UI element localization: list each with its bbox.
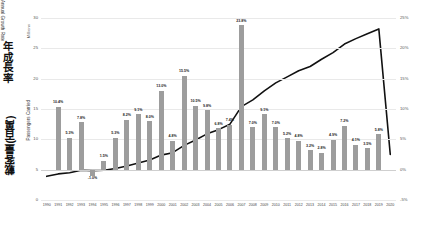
- x-axis-tick: 2006: [226, 204, 234, 208]
- growth-rate-bar: [353, 145, 358, 170]
- x-axis-tick: 2003: [192, 204, 200, 208]
- x-axis-tick: 2011: [283, 204, 291, 208]
- x-axis-tick: 1999: [146, 204, 154, 208]
- bar-value-label: 7.8%: [77, 117, 85, 121]
- bar-value-label: 5.3%: [111, 132, 119, 136]
- growth-rate-bar: [113, 138, 118, 170]
- right-axis-title-zh: 年成長率: [0, 41, 15, 83]
- bar-value-label: 4.8%: [169, 135, 177, 139]
- x-axis-tick: 1997: [123, 204, 131, 208]
- bar-value-label: 9.1%: [134, 109, 142, 113]
- bar-value-label: 10.5%: [190, 100, 200, 104]
- bar-value-label: 9.1%: [260, 109, 268, 113]
- growth-rate-bar: [170, 141, 175, 170]
- growth-rate-bar: [239, 25, 244, 169]
- x-axis-tick: 1996: [111, 204, 119, 208]
- bar-value-label: 4.1%: [352, 139, 360, 143]
- gridline: [41, 18, 396, 19]
- growth-rate-bar: [67, 138, 72, 170]
- bar-value-label: 4.8%: [295, 135, 303, 139]
- bar-value-label: 3.2%: [306, 145, 314, 149]
- growth-rate-bar: [262, 114, 267, 169]
- growth-rate-bar: [90, 170, 95, 176]
- gridline: [41, 79, 396, 80]
- growth-rate-bar: [56, 107, 61, 170]
- x-axis-tick: 1995: [100, 204, 108, 208]
- right-axis-tick: 25%: [400, 16, 408, 20]
- bar-value-label: 8.2%: [123, 114, 131, 118]
- right-axis-tick: 5%: [400, 137, 406, 141]
- x-axis-tick: 2016: [340, 204, 348, 208]
- bar-value-label: 7.0%: [272, 122, 280, 126]
- growth-rate-bar: [342, 126, 347, 170]
- bar-value-label: 9.8%: [203, 105, 211, 109]
- bar-value-label: 15.5%: [179, 70, 189, 74]
- bar-value-label: 7.0%: [249, 122, 257, 126]
- gridline: [41, 48, 396, 49]
- right-axis-tick: 0%: [400, 168, 406, 172]
- bar-value-label: 5.2%: [283, 133, 291, 137]
- bar-value-label: 7.4%: [226, 119, 234, 123]
- growth-rate-bar: [319, 153, 324, 170]
- bar-value-label: 1.5%: [100, 155, 108, 159]
- x-axis-tick: 2004: [203, 204, 211, 208]
- right-axis-tick: 20%: [400, 46, 408, 50]
- bar-value-label: -1.0%: [88, 177, 97, 181]
- left-axis-tick: 20: [33, 77, 38, 81]
- right-axis-tick: -5%: [400, 198, 407, 202]
- x-axis-tick: 2009: [260, 204, 268, 208]
- gridline: [41, 200, 396, 201]
- x-axis-tick: 2005: [215, 204, 223, 208]
- x-axis-tick: 2002: [180, 204, 188, 208]
- chart-container: Millions Passengers Carried 載客量(百萬) Annu…: [0, 0, 439, 229]
- x-axis-tick: 2013: [306, 204, 314, 208]
- bar-value-label: 2.8%: [317, 147, 325, 151]
- left-axis-tick: 30: [33, 16, 38, 20]
- x-axis-tick: 1993: [77, 204, 85, 208]
- growth-rate-bar: [216, 128, 221, 169]
- right-axis-tick: 15%: [400, 77, 408, 81]
- growth-rate-bar: [376, 134, 381, 169]
- x-axis-tick: 2008: [249, 204, 257, 208]
- x-axis-tick: 1998: [134, 204, 142, 208]
- left-axis-tick: 10: [33, 137, 38, 141]
- x-axis-tick: 2019: [375, 204, 383, 208]
- bar-value-label: 4.9%: [329, 134, 337, 138]
- growth-rate-bar: [182, 76, 187, 170]
- growth-rate-bar: [101, 161, 106, 170]
- growth-rate-bar: [250, 127, 255, 169]
- growth-rate-bar: [285, 138, 290, 170]
- x-axis-tick: 2020: [386, 204, 394, 208]
- x-axis-tick: 1990: [43, 204, 51, 208]
- x-axis-tick: 1994: [89, 204, 97, 208]
- left-axis-unit-label: Millions: [27, 24, 31, 38]
- growth-rate-bar: [296, 141, 301, 170]
- growth-rate-bar: [205, 110, 210, 169]
- right-axis-title-en: Annual Growth Rate: [0, 0, 5, 41]
- bar-value-label: 6.8%: [214, 123, 222, 127]
- bar-value-label: 7.2%: [340, 120, 348, 124]
- gridline: [41, 109, 396, 110]
- x-axis-tick: 2001: [169, 204, 177, 208]
- bar-value-label: 5.8%: [375, 129, 383, 133]
- x-axis-tick: 2000: [157, 204, 165, 208]
- x-axis-tick: 2007: [237, 204, 245, 208]
- bar-value-label: 3.5%: [363, 143, 371, 147]
- growth-rate-bar: [273, 127, 278, 169]
- left-axis-tick: 5: [36, 168, 38, 172]
- left-axis-title-zh: 載客量(百萬): [5, 116, 16, 175]
- x-axis-tick: 2012: [295, 204, 303, 208]
- growth-rate-bar: [308, 150, 313, 169]
- x-axis-tick: 2010: [272, 204, 280, 208]
- bar-value-label: 10.4%: [53, 101, 63, 105]
- bar-value-label: 8.0%: [146, 116, 154, 120]
- growth-rate-bar: [227, 125, 232, 170]
- x-axis-tick: 1992: [66, 204, 74, 208]
- left-axis-tick: 15: [33, 107, 38, 111]
- x-axis-tick: 2014: [318, 204, 326, 208]
- right-axis-tick: 10%: [400, 107, 408, 111]
- left-axis-title-en: Passengers Carried: [27, 100, 32, 141]
- bar-value-label: 13.0%: [156, 85, 166, 89]
- plot-area: -5%0%5%10%15%20%25%05101520253010.4%5.3%…: [41, 18, 396, 200]
- x-axis-tick: 2015: [329, 204, 337, 208]
